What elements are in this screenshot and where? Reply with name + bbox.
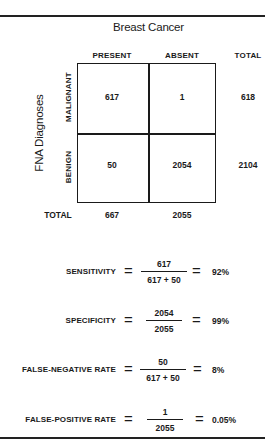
formula-result: 92% [212, 267, 229, 277]
fraction-bar [140, 369, 186, 370]
equals-sign: = [124, 262, 133, 279]
formula-label: SPECIFICITY [66, 316, 116, 325]
fraction-bar [141, 271, 187, 272]
top-rule [0, 15, 265, 17]
fraction: 617 617 + 50 [141, 258, 187, 286]
total-present: 667 [82, 210, 142, 220]
row-axis-label: FNA Diagnoses [33, 83, 47, 183]
formula-false-positive-rate: FALSE-POSITIVE RATE = 1 2055 = 0.05% [0, 406, 273, 436]
cell-malignant-absent: 1 [152, 92, 212, 102]
cell-malignant-total: 618 [218, 92, 273, 102]
total-row-label: TOTAL [28, 210, 88, 220]
cell-benign-present: 50 [82, 160, 142, 170]
grid-horizontal-divider [78, 133, 215, 135]
formula-label: FALSE-NEGATIVE RATE [22, 365, 116, 374]
equals-sign: = [195, 410, 204, 427]
column-header-total: TOTAL [223, 51, 273, 60]
fraction-bar [146, 320, 182, 321]
fraction: 50 617 + 50 [140, 356, 186, 384]
numerator: 50 [140, 356, 186, 368]
denominator: 617 + 50 [140, 372, 186, 384]
figure-title: Breast Cancer [0, 21, 273, 33]
fraction: 1 2055 [147, 406, 183, 434]
row-label-benign: BENIGN [64, 137, 74, 197]
column-header-present: PRESENT [82, 51, 142, 60]
numerator: 1 [147, 406, 183, 418]
formula-result: 99% [212, 316, 229, 326]
denominator: 617 + 50 [141, 274, 187, 286]
numerator: 617 [141, 258, 187, 270]
cell-benign-absent: 2054 [152, 160, 212, 170]
row-label-malignant: MALIGNANT [64, 67, 74, 127]
formula-false-negative-rate: FALSE-NEGATIVE RATE = 50 617 + 50 = 8% [0, 356, 273, 386]
cell-malignant-present: 617 [82, 92, 142, 102]
equals-sign: = [124, 410, 133, 427]
contingency-table [77, 63, 216, 203]
formula-label: SENSITIVITY [66, 267, 116, 276]
fraction-bar [147, 419, 183, 420]
formula-result: 0.05% [212, 415, 236, 425]
equals-sign: = [192, 262, 201, 279]
bottom-rule [0, 437, 265, 439]
equals-sign: = [193, 360, 202, 377]
equals-sign: = [192, 311, 201, 328]
formula-label: FALSE-POSITIVE RATE [25, 415, 116, 424]
formula-sensitivity: SENSITIVITY = 617 617 + 50 = 92% [0, 258, 273, 288]
column-header-absent: ABSENT [152, 51, 212, 60]
total-absent: 2055 [152, 210, 212, 220]
formula-specificity: SPECIFICITY = 2054 2055 = 99% [0, 307, 273, 337]
formula-result: 8% [212, 365, 224, 375]
equals-sign: = [124, 360, 133, 377]
cell-benign-total: 2104 [218, 160, 273, 170]
fraction: 2054 2055 [146, 307, 182, 335]
denominator: 2055 [147, 422, 183, 434]
numerator: 2054 [146, 307, 182, 319]
denominator: 2055 [146, 323, 182, 335]
equals-sign: = [124, 311, 133, 328]
